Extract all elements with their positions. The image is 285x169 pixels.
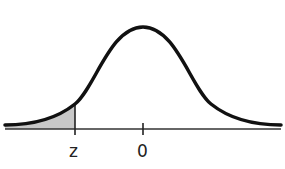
bell-curve — [5, 27, 281, 125]
zero-label: 0 — [137, 143, 148, 160]
z-label: z — [69, 143, 78, 160]
normal-curve-diagram: z 0 — [0, 0, 285, 169]
